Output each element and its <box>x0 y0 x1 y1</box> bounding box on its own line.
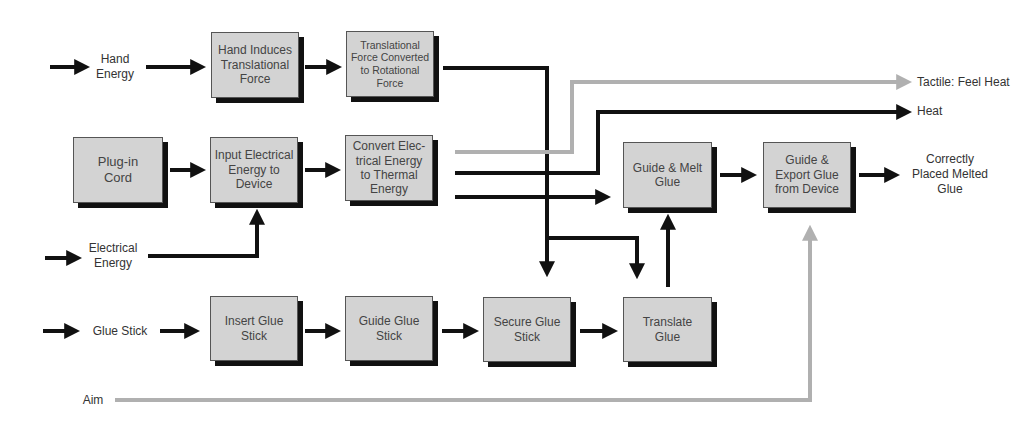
label-correctly-placed-melted-glue: Correctly Placed Melted Glue <box>904 152 996 197</box>
box-label: Translational Force Converted to Rotatio… <box>349 39 431 89</box>
box-label: Insert Glue Stick <box>223 314 286 343</box>
label-aim: Aim <box>76 393 110 408</box>
label-tactile-feel-heat: Tactile: Feel Heat <box>917 75 1035 90</box>
line-electrical-to-input <box>148 216 257 256</box>
box-input-electrical-energy: Input Electrical Energy to Device <box>210 137 298 203</box>
box-secure-glue-stick: Secure Glue Stick <box>483 297 571 362</box>
box-guide-melt-glue: Guide & Melt Glue <box>623 142 712 208</box>
box-convert-electrical-to-thermal: Convert Elec- trical Energy to Thermal E… <box>345 135 433 201</box>
box-label: Secure Glue Stick <box>492 315 563 344</box>
box-plug-in-cord: Plug-in Cord <box>73 137 163 203</box>
box-label: Guide & Export Glue from Device <box>773 153 841 196</box>
box-guide-glue-stick: Guide Glue Stick <box>345 296 433 361</box>
label-hand-energy: Hand Energy <box>86 52 144 82</box>
box-translate-glue: Translate Glue <box>623 297 712 362</box>
box-label: Input Electrical Energy to Device <box>213 148 296 191</box>
box-label: Guide Glue Stick <box>357 314 422 343</box>
box-label: Hand Induces Translational Force <box>216 43 294 86</box>
line-rotational-branch-translate <box>547 238 637 272</box>
box-guide-export-glue: Guide & Export Glue from Device <box>763 142 851 208</box>
connector-layer <box>0 0 1035 428</box>
box-label: Plug-in Cord <box>96 154 140 185</box>
box-insert-glue-stick: Insert Glue Stick <box>210 296 298 361</box>
box-label: Convert Elec- trical Energy to Thermal E… <box>351 139 428 197</box>
label-glue-stick: Glue Stick <box>82 324 158 339</box>
label-heat: Heat <box>917 104 967 119</box>
functional-flow-diagram: Hand Energy Electrical Energy Glue Stick… <box>0 0 1035 428</box>
line-rotational-force-down <box>443 68 547 270</box>
box-label: Guide & Melt Glue <box>631 161 704 190</box>
box-translational-to-rotational: Translational Force Converted to Rotatio… <box>346 31 434 97</box>
label-electrical-energy: Electrical Energy <box>78 241 148 271</box>
box-hand-induces-translational-force: Hand Induces Translational Force <box>211 32 299 98</box>
box-label: Translate Glue <box>641 315 695 344</box>
